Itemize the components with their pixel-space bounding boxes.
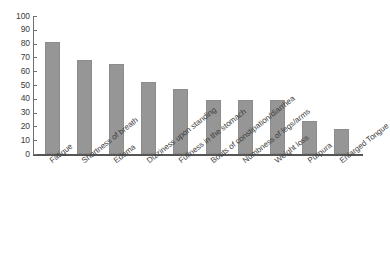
y-tick-label: 80 bbox=[4, 39, 30, 48]
y-tick-label-wrap: 80 bbox=[0, 39, 30, 48]
y-tick-label-wrap: 10 bbox=[0, 136, 30, 145]
y-tick-label: 0 bbox=[4, 150, 30, 159]
bar bbox=[238, 100, 253, 154]
bar bbox=[302, 121, 317, 154]
bar bbox=[206, 100, 221, 154]
y-tick-label: 20 bbox=[4, 122, 30, 131]
y-tick-label-wrap: 60 bbox=[0, 67, 30, 76]
y-tick-label: 10 bbox=[4, 136, 30, 145]
y-tick-label-wrap: 30 bbox=[0, 108, 30, 117]
y-tick-label: 100 bbox=[4, 12, 30, 21]
y-tick-label-wrap: 100 bbox=[0, 12, 30, 21]
bar bbox=[45, 42, 60, 154]
y-tick-label-wrap: 20 bbox=[0, 122, 30, 131]
y-tick-label-wrap: 0 bbox=[0, 150, 30, 159]
x-axis-line bbox=[33, 154, 363, 156]
y-tick-label-wrap: 90 bbox=[0, 25, 30, 34]
y-tick-label-wrap: 40 bbox=[0, 94, 30, 103]
bar bbox=[334, 129, 349, 154]
y-tick-label: 70 bbox=[4, 53, 30, 62]
bar bbox=[77, 60, 92, 154]
bar bbox=[141, 82, 156, 154]
bar bbox=[173, 89, 188, 154]
bar bbox=[270, 100, 285, 154]
y-tick-label: 90 bbox=[4, 25, 30, 34]
bars-group bbox=[33, 16, 363, 154]
y-tick-mark bbox=[33, 154, 37, 155]
y-tick-label: 50 bbox=[4, 81, 30, 90]
y-tick-label: 40 bbox=[4, 94, 30, 103]
y-tick-label: 30 bbox=[4, 108, 30, 117]
bar bbox=[109, 64, 124, 154]
y-tick-label-wrap: 70 bbox=[0, 53, 30, 62]
y-tick-label-wrap: 50 bbox=[0, 81, 30, 90]
y-tick-label: 60 bbox=[4, 67, 30, 76]
